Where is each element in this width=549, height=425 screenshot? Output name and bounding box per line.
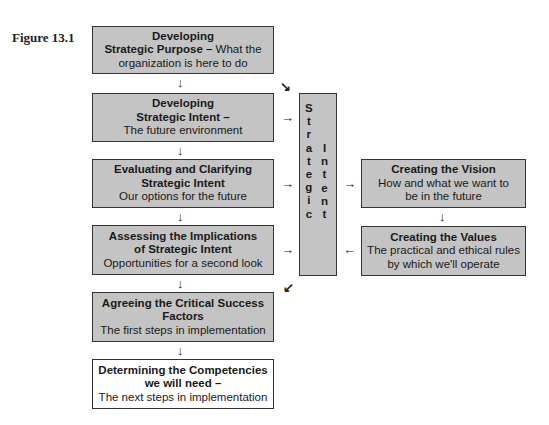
- box-title: Creating the Vision: [391, 163, 496, 175]
- box-title: of Strategic Intent: [134, 243, 232, 255]
- box-creating-values: Creating the Values The practical and et…: [361, 226, 526, 276]
- strategic-intent-vertical-box: S t r a t e g i c I n t e n t: [299, 93, 337, 276]
- box-title: Creating the Values: [390, 231, 497, 243]
- letter: S: [305, 102, 313, 115]
- box-subtitle: by which we'll operate: [365, 258, 522, 272]
- box-subtitle: The next steps in implementation: [96, 391, 270, 405]
- box-subtitle: organization is here to do: [96, 57, 270, 71]
- letter: i: [307, 194, 310, 207]
- box-critical-success-factors: Agreeing the Critical Success Factors Th…: [92, 292, 274, 342]
- arrow-down-icon: ↓: [177, 344, 184, 357]
- letter: r: [307, 128, 311, 141]
- arrow-right-icon: →: [281, 177, 294, 190]
- arrow-right-icon: →: [281, 111, 294, 124]
- letter: c: [306, 208, 312, 221]
- arrow-down-icon: ↓: [177, 144, 184, 157]
- figure-label: Figure 13.1: [12, 30, 75, 46]
- box-subtitle: The future environment: [96, 124, 270, 138]
- arrow-down-icon: ↓: [439, 210, 446, 223]
- box-creating-vision: Creating the Vision How and what we want…: [361, 159, 526, 208]
- box-title: Agreeing the Critical Success: [102, 297, 264, 309]
- arrow-down-icon: ↓: [177, 210, 184, 223]
- letter: e: [321, 182, 327, 195]
- box-subtitle: The first steps in implementation: [96, 324, 270, 338]
- box-strategic-purpose: Developing Strategic Purpose – What the …: [92, 26, 274, 74]
- box-title: we will need –: [145, 377, 222, 389]
- box-subtitle: Our options for the future: [96, 190, 270, 204]
- box-title: Evaluating and Clarifying: [114, 163, 252, 175]
- arrow-right-icon: →: [343, 177, 356, 190]
- box-evaluating-clarifying: Evaluating and Clarifying Strategic Inte…: [92, 159, 274, 208]
- box-subtitle: What the: [212, 43, 261, 55]
- box-subtitle: Opportunities for a second look: [96, 257, 270, 271]
- box-competencies: Determining the Competencies we will nee…: [92, 359, 274, 409]
- box-title: Developing: [152, 97, 214, 109]
- box-title: Determining the Competencies: [98, 364, 267, 376]
- letter: t: [307, 155, 311, 168]
- box-title: Strategic Intent –: [136, 111, 229, 123]
- box-title: Strategic Purpose –: [104, 43, 212, 55]
- letter: n: [321, 195, 328, 208]
- box-subtitle: be in the future: [365, 190, 522, 204]
- letter: t: [323, 208, 327, 221]
- box-subtitle: The practical and ethical rules: [365, 244, 522, 258]
- box-title: Factors: [162, 310, 204, 322]
- arrow-down-left-icon: ↙: [283, 281, 294, 294]
- arrow-left-icon: ←: [343, 243, 356, 256]
- letter: a: [306, 142, 312, 155]
- arrow-right-icon: →: [281, 243, 294, 256]
- letter: t: [323, 168, 327, 181]
- box-strategic-intent: Developing Strategic Intent – The future…: [92, 93, 274, 142]
- letter: e: [306, 168, 312, 181]
- letter: I: [323, 142, 326, 155]
- vertical-word-intent: I n t e n t: [321, 142, 328, 221]
- letter: g: [305, 181, 312, 194]
- arrow-down-icon: ↓: [177, 277, 184, 290]
- letter: n: [321, 155, 328, 168]
- box-title: Strategic Intent: [141, 177, 225, 189]
- box-title: Assessing the Implications: [109, 230, 257, 242]
- vertical-word-strategic: S t r a t e g i c: [305, 102, 313, 221]
- box-assessing-implications: Assessing the Implications of Strategic …: [92, 225, 274, 275]
- arrow-down-icon: ↓: [177, 76, 184, 89]
- box-subtitle: How and what we want to: [365, 177, 522, 191]
- box-title: Developing: [152, 30, 214, 42]
- letter: t: [307, 115, 311, 128]
- arrow-down-right-icon: ↘: [280, 80, 291, 93]
